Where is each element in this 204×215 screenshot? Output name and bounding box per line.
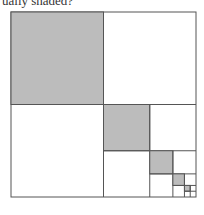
shaded-square-level-2 [104,105,150,151]
shaded-square-level-1 [11,12,104,105]
nested-squares-diagram [0,0,204,215]
shaded-square-level-4 [173,174,185,186]
shaded-square-level-5 [184,185,190,191]
shaded-square-level-3 [150,151,173,174]
